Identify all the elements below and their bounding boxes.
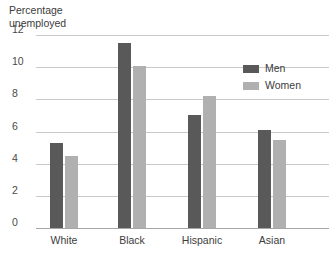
unemployment-bar-chart: Percentage unemployed 024681012 Men Wome…: [0, 0, 333, 259]
y-tick-label: 8: [12, 87, 32, 99]
legend-label-men: Men: [265, 63, 285, 74]
x-category-label: Asian: [232, 234, 312, 246]
legend-swatch-men: [243, 65, 259, 73]
bar-hispanic-men: [188, 115, 201, 228]
bar-black-men: [118, 43, 131, 228]
bar-black-women: [133, 66, 146, 228]
legend-label-women: Women: [265, 80, 301, 91]
gridline: [36, 132, 329, 133]
bar-white-men: [50, 143, 63, 228]
bar-white-women: [65, 156, 78, 228]
bar-hispanic-women: [203, 96, 216, 228]
gridline: [36, 35, 329, 36]
bar-asian-men: [258, 130, 271, 228]
chart-axis-title: Percentage unemployed: [9, 4, 149, 30]
y-tick-label: 10: [12, 55, 32, 67]
x-category-label: Black: [92, 234, 172, 246]
x-category-label: Hispanic: [162, 234, 242, 246]
legend-swatch-women: [243, 82, 259, 90]
y-tick-label: 2: [12, 184, 32, 196]
y-tick-label: 0: [12, 216, 32, 228]
axis-baseline: [36, 228, 329, 229]
y-tick-label: 6: [12, 120, 32, 132]
gridline: [36, 99, 329, 100]
legend-item-women: Women: [243, 77, 301, 94]
legend-item-men: Men: [243, 60, 301, 77]
y-tick-label: 4: [12, 152, 32, 164]
bar-asian-women: [273, 140, 286, 228]
chart-legend: Men Women: [243, 60, 301, 94]
